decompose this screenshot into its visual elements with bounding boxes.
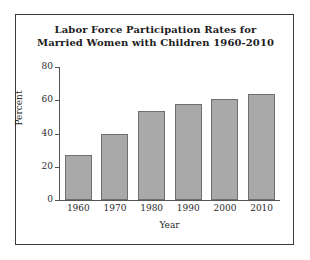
y-axis-tick-mark	[55, 100, 59, 101]
y-axis-tick-label: 20	[42, 160, 53, 173]
y-axis-tick-label: 40	[42, 127, 53, 140]
x-axis-tick-label: 1990	[177, 203, 200, 213]
bar-group: 1980	[134, 67, 170, 200]
bar-group: 1990	[170, 67, 206, 200]
x-axis-tick-label: 1960	[67, 203, 90, 213]
plot-area: 020406080 196019701980199020002010	[59, 67, 280, 200]
x-axis-title: Year	[59, 220, 280, 230]
bar-series: 196019701980199020002010	[60, 67, 280, 200]
y-axis-tick-mark	[55, 167, 59, 168]
x-axis-tick-label: 2010	[250, 203, 273, 213]
y-axis-tick-mark	[55, 134, 59, 135]
bar-group: 1960	[60, 67, 96, 200]
x-axis-tick-label: 2000	[214, 203, 237, 213]
chart-title: Labor Force Participation Rates for Marr…	[16, 24, 295, 49]
y-axis-title: Percent	[14, 78, 24, 138]
chart-title-line-1: Labor Force Participation Rates for	[16, 24, 295, 37]
x-axis-tick-label: 1970	[104, 203, 127, 213]
chart-title-line-2: Married Women with Children 1960-2010	[16, 37, 295, 50]
y-axis-tick-label: 60	[42, 93, 53, 106]
y-axis-tick-label: 80	[42, 60, 53, 73]
y-axis-tick-mark	[55, 67, 59, 68]
y-axis-tick-mark	[55, 200, 59, 201]
x-axis-line	[59, 200, 280, 201]
bar-1970[interactable]	[101, 134, 128, 200]
bar-2000[interactable]	[211, 99, 238, 200]
bar-1980[interactable]	[138, 111, 165, 200]
bar-group: 2010	[244, 67, 280, 200]
bar-2010[interactable]	[248, 94, 275, 200]
bar-group: 2000	[207, 67, 243, 200]
bar-1960[interactable]	[65, 155, 92, 200]
x-axis-tick-label: 1980	[140, 203, 163, 213]
chart-figure: Labor Force Participation Rates for Marr…	[15, 14, 294, 245]
y-axis-tick-label: 0	[47, 193, 53, 206]
bar-group: 1970	[97, 67, 133, 200]
bar-1990[interactable]	[175, 104, 202, 200]
